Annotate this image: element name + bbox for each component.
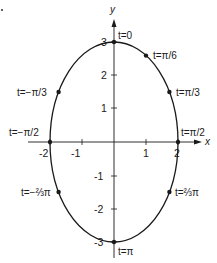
point-label: t=−⅔π: [21, 187, 51, 198]
y-tick-label: 3: [101, 36, 107, 48]
x-tick-label: -2: [39, 147, 48, 159]
point-t-pi: [112, 240, 116, 244]
point-label: t=⅔π: [175, 187, 199, 198]
y-axis-label: y: [109, 4, 116, 15]
y-tick-label: 2: [101, 69, 107, 81]
point-t-pi-6: [144, 53, 148, 57]
point-label: t=−π/2: [9, 127, 39, 138]
point-t-neg-pi-2: [48, 140, 52, 144]
point-t-2pi-3: [167, 190, 171, 194]
x-axis-label: x: [204, 136, 211, 147]
x-axis-arrow-icon: [194, 140, 202, 145]
point-label: t=π: [118, 246, 134, 257]
point-t-pi-3: [167, 90, 171, 94]
point-label: t=π/3: [176, 87, 200, 98]
x-tick-label: 1: [143, 147, 149, 159]
ellipse-diagram: x y -2 -1 1 2 3 2 1 -1 -2 -3 t=0 t=π/6: [0, 0, 217, 263]
point-label: t=π/2: [181, 127, 205, 138]
point-t-pi-2: [176, 140, 180, 144]
y-tick-label: -1: [94, 170, 103, 182]
point-label: t=−π/3: [17, 87, 47, 98]
point-label: t=0: [118, 30, 133, 41]
point-t-0: [112, 40, 116, 44]
x-tick-label: -1: [71, 147, 80, 159]
point-t-neg-pi-3: [56, 90, 60, 94]
y-axis-arrow-icon: [112, 19, 117, 27]
point-t-neg-2pi-3: [56, 190, 60, 194]
y-tick-label: 1: [101, 102, 107, 114]
y-tick-label: -2: [94, 203, 103, 215]
corner-mark: [1, 9, 3, 11]
point-label: t=π/6: [153, 50, 177, 61]
